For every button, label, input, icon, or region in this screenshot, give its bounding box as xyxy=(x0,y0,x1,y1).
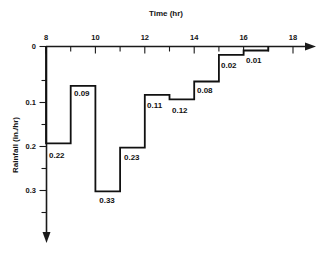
bar-value-0-09: 0.09 xyxy=(74,89,90,98)
y-tick-label-0-1: 0.1 xyxy=(26,98,36,107)
x-axis-arrow-icon xyxy=(305,43,316,51)
bar-value-0-02: 0.02 xyxy=(221,61,237,70)
y-tick-label-0: 0 xyxy=(32,42,36,51)
bar-value-0-11: 0.11 xyxy=(147,101,163,110)
y-axis-title: Rainfall (in./hr) xyxy=(11,117,20,173)
x-tick-label-10: 10 xyxy=(91,33,99,42)
bar-value-0-22: 0.22 xyxy=(49,151,65,160)
x-tick-label-16: 16 xyxy=(239,33,247,42)
y-tick-label-0-2: 0.2 xyxy=(26,142,36,151)
x-axis: 8 10 12 14 16 18 Time (hr) xyxy=(44,9,316,54)
bar-value-0-23: 0.23 xyxy=(124,153,140,162)
x-tick-label-18: 18 xyxy=(289,33,297,42)
bar-value-0-12: 0.12 xyxy=(172,106,188,115)
y-axis: 0 0.1 0.2 0.3 Rainfall (in./hr) xyxy=(11,42,51,243)
hyetograph-chart: 8 10 12 14 16 18 Time (hr) 0 0.1 xyxy=(0,0,330,257)
y-axis-arrow-icon xyxy=(43,232,51,243)
x-axis-title: Time (hr) xyxy=(149,9,183,18)
chart-svg: 8 10 12 14 16 18 Time (hr) 0 0.1 xyxy=(0,0,330,257)
x-tick-label-8: 8 xyxy=(44,33,48,42)
bar-value-0-08: 0.08 xyxy=(197,86,213,95)
bar-value-labels: 0.22 0.09 0.33 0.23 0.11 0.12 0.08 0.02 … xyxy=(49,56,262,205)
y-tick-label-0-3: 0.3 xyxy=(26,186,36,195)
x-tick-label-12: 12 xyxy=(141,33,149,42)
x-tick-label-14: 14 xyxy=(190,33,199,42)
bar-value-0-01: 0.01 xyxy=(246,56,262,65)
bar-value-0-33: 0.33 xyxy=(99,196,115,205)
